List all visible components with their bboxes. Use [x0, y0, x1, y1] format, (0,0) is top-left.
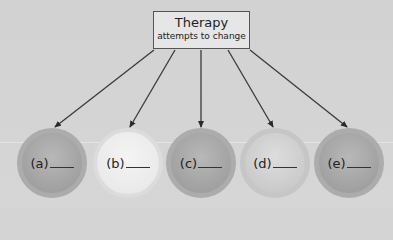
arrow-e [250, 50, 347, 127]
answer-blank-e[interactable] [347, 166, 371, 168]
target-label-d: (d) [253, 156, 271, 171]
target-circle-c: (c) [166, 128, 236, 198]
arrow-a [55, 50, 154, 127]
target-circle-b: (b) [93, 128, 163, 198]
target-circle-d: (d) [240, 128, 310, 198]
arrow-b [130, 50, 175, 127]
target-label-e: (e) [327, 156, 345, 171]
target-circle-a: (a) [17, 128, 87, 198]
answer-blank-a[interactable] [50, 166, 74, 168]
target-label-c: (c) [180, 156, 197, 171]
arrow-d [228, 50, 273, 127]
target-label-b: (b) [106, 156, 124, 171]
target-label-a: (a) [30, 156, 48, 171]
target-circle-e: (e) [314, 128, 384, 198]
answer-blank-c[interactable] [198, 166, 222, 168]
answer-blank-b[interactable] [126, 166, 150, 168]
answer-blank-d[interactable] [273, 166, 297, 168]
